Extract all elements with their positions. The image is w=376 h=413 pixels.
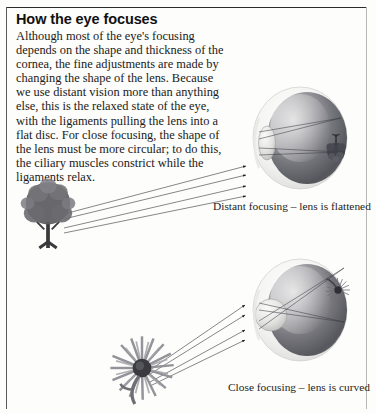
vitreous-highlight-distant <box>270 94 330 162</box>
caption-distant-focusing: Distant focusing – lens is flattened <box>213 200 371 212</box>
light-rays-close <box>150 305 245 386</box>
object-flower <box>110 336 173 404</box>
left-rule <box>6 7 7 409</box>
cornea-distant <box>255 118 260 168</box>
caption-close-focusing: Close focusing – lens is curved <box>228 381 370 393</box>
vitreous-highlight-close <box>270 266 330 334</box>
cornea-close <box>255 290 260 340</box>
object-tree <box>21 179 76 248</box>
top-rule <box>6 7 366 8</box>
body-paragraph: Although most of the eye's focusing depe… <box>16 29 228 184</box>
eyeball-globe-close <box>267 264 347 356</box>
refracted-rays-close <box>259 268 344 329</box>
eyeball-globe-distant <box>267 92 347 184</box>
refracted-rays-distant <box>259 118 341 155</box>
lens-curved <box>255 299 287 331</box>
eyeball-sclera-distant <box>253 87 347 189</box>
retinal-image-tree <box>326 134 345 162</box>
page-title: How the eye focuses <box>16 11 246 27</box>
retinal-image-flower <box>326 278 350 302</box>
eyeball-sclera-close <box>253 259 347 361</box>
scanned-page: How the eye focuses Although most of the… <box>0 0 376 413</box>
lens-flattened <box>259 126 276 160</box>
